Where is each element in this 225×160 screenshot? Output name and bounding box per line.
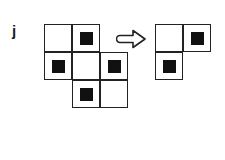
right-cell-r0-c0 <box>155 24 183 52</box>
left-cell-r1-c2 <box>100 52 128 80</box>
filled-square-icon <box>80 88 93 101</box>
filled-square-icon <box>163 60 176 73</box>
left-cell-r0-c0 <box>44 24 72 52</box>
right-arrow-icon <box>116 28 148 50</box>
right-cell-r0-c1 <box>183 24 211 52</box>
filled-square-icon <box>191 32 204 45</box>
left-cell-r0-c1 <box>72 24 100 52</box>
right-cell-r1-c0 <box>155 52 183 80</box>
filled-square-icon <box>108 60 121 73</box>
left-cell-r1-c0 <box>44 52 72 80</box>
left-cell-r1-c1 <box>72 52 100 80</box>
left-cell-r2-c1 <box>72 80 100 108</box>
puzzle-label: j <box>12 22 16 39</box>
left-cell-r2-c2 <box>100 80 128 108</box>
filled-square-icon <box>52 60 65 73</box>
filled-square-icon <box>80 32 93 45</box>
